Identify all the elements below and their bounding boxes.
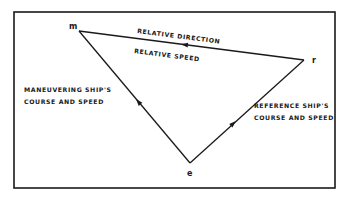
maneuvering-ship-label-line2: COURSE AND SPEED: [24, 98, 104, 105]
reference-ship-label-line2: COURSE AND SPEED: [254, 114, 334, 121]
relative-motion-diagram: m r e RELATIVE DIRECTION RELATIVE SPEED …: [0, 0, 346, 199]
reference-ship-line: [190, 60, 304, 163]
vertex-label-m: m: [69, 22, 77, 31]
relative-direction-label: RELATIVE DIRECTION: [137, 27, 221, 45]
relative-speed-label: RELATIVE SPEED: [134, 47, 200, 62]
vertex-label-r: r: [312, 56, 316, 65]
maneuvering-ship-label-line1: MANEUVERING SHIP'S: [24, 86, 112, 93]
reference-ship-label-line1: REFERENCE SHIP'S: [254, 102, 329, 109]
vertex-label-e: e: [187, 169, 193, 178]
